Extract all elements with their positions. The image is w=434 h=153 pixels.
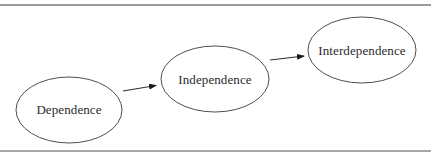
- node-dependence-label: Dependence: [36, 102, 101, 118]
- node-interdependence-label: Interdependence: [318, 43, 405, 59]
- arrow-dependence-to-independence: [123, 86, 156, 92]
- diagram-figure: Dependence Independence Interdependence: [0, 0, 434, 153]
- arrow-independence-to-interdependence: [270, 56, 304, 60]
- node-independence-label: Independence: [178, 72, 251, 88]
